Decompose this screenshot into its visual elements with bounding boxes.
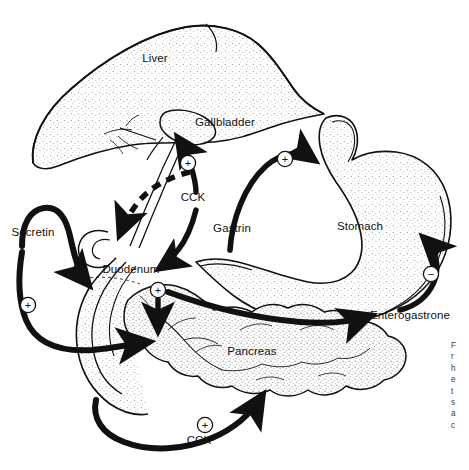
- sign-enterogastrone-glyph: −: [428, 268, 434, 280]
- caption-line: r: [451, 351, 469, 362]
- anatomy-diagram: + + + + − + Liver Gallbladder Stomach Du…: [0, 0, 469, 470]
- sign-cck-bottom: +: [197, 417, 212, 432]
- caption-line: s: [451, 397, 469, 408]
- label-secretin: Secretin: [12, 226, 55, 238]
- label-gastrin: Gastrin: [213, 222, 251, 234]
- sign-cck-bottom-glyph: +: [202, 419, 208, 431]
- caption-fragment: F r h e t s a c: [451, 340, 469, 436]
- caption-line: e: [451, 374, 469, 385]
- sign-gastrin-glyph: +: [282, 153, 288, 165]
- liver-organ: [33, 24, 324, 169]
- label-gallbladder: Gallbladder: [195, 116, 255, 128]
- caption-line: a: [451, 408, 469, 419]
- arrow-gastrin-stomach: [230, 154, 314, 250]
- figure-root: + + + + − + Liver Gallbladder Stomach Du…: [0, 0, 469, 470]
- sign-secretin: +: [20, 297, 35, 312]
- label-liver: Liver: [142, 52, 167, 64]
- sign-gallbladder-glyph: +: [185, 157, 191, 169]
- sign-gastrin: +: [277, 151, 292, 166]
- sign-duodenum-glyph: +: [155, 284, 161, 296]
- label-enterogastrone: Enterogastrone: [370, 309, 450, 321]
- label-cck-upper: CCK: [181, 191, 206, 203]
- sign-secretin-glyph: +: [25, 299, 31, 311]
- caption-line: F: [451, 340, 469, 351]
- label-duodenum: Duodenum: [102, 263, 159, 275]
- sign-gallbladder: +: [180, 155, 195, 170]
- label-stomach: Stomach: [337, 220, 383, 232]
- arrow-cck-duodenum: [160, 210, 196, 268]
- arrow-cck-bileduct: [120, 172, 190, 234]
- sign-enterogastrone: −: [423, 266, 438, 281]
- caption-line: c: [451, 420, 469, 431]
- caption-line: h: [451, 363, 469, 374]
- caption-line: t: [451, 386, 469, 397]
- label-pancreas: Pancreas: [227, 345, 277, 357]
- sign-duodenum: +: [150, 282, 165, 297]
- label-cck-lower: CCK: [187, 434, 212, 446]
